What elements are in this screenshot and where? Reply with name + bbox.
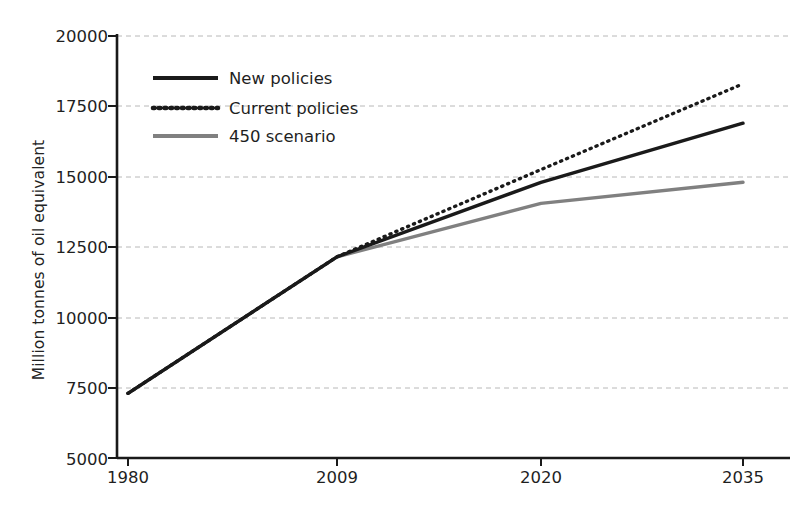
plot-area: New policies Current policies 450 scenar… [0,0,798,520]
y-axis [108,34,117,459]
legend-label-new-policies: New policies [229,69,332,88]
x-axis [117,458,790,466]
energy-demand-line-chart: Million tonnes of oil equivalent 20000 1… [0,0,798,520]
series-line-current-policies [128,84,743,394]
legend-label-current-policies: Current policies [229,99,358,118]
legend-label-450-scenario: 450 scenario [229,127,336,146]
series-line-new-policies [128,123,743,393]
legend: New policies Current policies 450 scenar… [153,69,358,146]
